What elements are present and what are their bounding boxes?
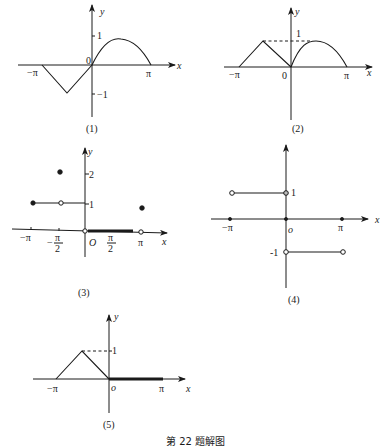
svg-text:2: 2 <box>55 243 60 254</box>
origin-label: 0 <box>86 55 91 66</box>
x-tick-pi-label: π <box>338 222 343 233</box>
svg-text:−: − <box>47 237 53 248</box>
sine-curve <box>291 41 347 67</box>
x-tick-pi-label: π <box>159 383 164 394</box>
x-axis-label: x <box>185 383 191 394</box>
x-tick-pi-label: π <box>146 68 151 79</box>
y-tick-1-label: 1 <box>89 199 94 210</box>
x-tick-neg-pi-label: −π <box>27 67 38 78</box>
open-point <box>83 229 87 233</box>
x-axis-label: x <box>176 60 182 71</box>
triangle-curve <box>42 65 92 93</box>
panel-caption: (5) <box>103 419 115 431</box>
filled-point <box>340 217 343 220</box>
y-axis-label: y <box>113 311 119 322</box>
svg-text:π: π <box>55 232 60 243</box>
filled-point <box>58 170 63 175</box>
x-tick-half-pi-label: π 2 <box>107 232 116 254</box>
panel-caption: (1) <box>86 123 98 135</box>
panel-caption: (2) <box>292 123 304 135</box>
panel-caption: (3) <box>78 287 90 299</box>
figure-canvas: y x 0 1 −1 −π π (1) y x 0 1 −π π (2) <box>0 0 387 447</box>
filled-point <box>31 201 35 205</box>
open-point <box>284 191 289 196</box>
y-axis-label: y <box>99 6 105 17</box>
x-tick-neg-pi-label: −π <box>229 69 240 80</box>
y-tick-2-label: 2 <box>89 169 94 180</box>
origin-label: 0 <box>282 70 287 81</box>
svg-text:π: π <box>108 232 113 243</box>
x-axis-label: x <box>374 214 380 225</box>
origin-label: o <box>111 382 116 393</box>
triangle-curve <box>239 41 291 67</box>
y-tick-1-label: 1 <box>112 345 117 356</box>
panel-caption: (4) <box>288 294 300 306</box>
panel-3: y x O 2 1 −π − π 2 π 2 π (3) <box>12 146 167 299</box>
x-axis-label: x <box>161 236 167 247</box>
x-axis-label: x <box>366 67 372 78</box>
x-tick-neg-pi-label: −π <box>222 222 233 233</box>
origin-label: o <box>288 224 293 235</box>
y-tick-neg1-label: −1 <box>97 89 108 100</box>
sine-curve <box>92 39 151 65</box>
panel-4: x o 1 -1 −π π (4) <box>211 145 380 306</box>
panel-5: y x o 1 −π π (5) <box>33 311 191 431</box>
y-tick-1-label: 1 <box>97 30 102 41</box>
y-tick-1-label: 1 <box>291 187 296 198</box>
open-point <box>59 201 63 205</box>
x-tick-neg-pi-label: −π <box>20 232 31 243</box>
y-axis-label: y <box>294 6 300 17</box>
open-point <box>341 250 346 255</box>
open-point <box>230 191 235 196</box>
panel-1: y x 0 1 −1 −π π (1) <box>18 5 182 135</box>
x-tick-neg-half-pi-label: − π 2 <box>47 232 63 254</box>
origin-label: O <box>89 237 96 248</box>
panel-2: y x 0 1 −π π (2) <box>224 6 372 135</box>
y-tick-neg1-label: -1 <box>270 247 278 258</box>
filled-point <box>140 206 145 211</box>
svg-text:2: 2 <box>108 243 113 254</box>
x-tick-pi-label: π <box>344 70 349 81</box>
filled-point <box>284 217 287 220</box>
x-tick-neg-pi-label: −π <box>47 383 58 394</box>
triangle-curve <box>56 351 109 379</box>
filled-point <box>228 217 231 220</box>
open-point <box>139 230 143 234</box>
y-tick-1-label: 1 <box>296 28 301 39</box>
y-axis-label: y <box>87 146 93 157</box>
x-tick-pi-label: π <box>138 237 143 248</box>
open-point <box>284 250 289 255</box>
figure-title: 第 22 题解图 <box>166 435 225 447</box>
